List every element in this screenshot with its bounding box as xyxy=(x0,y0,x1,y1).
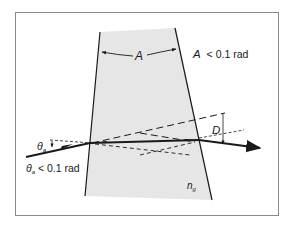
incidence-condition-label: θa < 0.1 rad xyxy=(26,162,80,175)
deviation-label: D xyxy=(212,124,220,136)
apex-condition-label: A < 0.1 rad xyxy=(192,48,248,60)
thin-prism-diagram: A A < 0.1 rad θa θa < 0.1 rad D ng xyxy=(0,0,293,232)
apex-angle-label: A xyxy=(134,49,143,63)
